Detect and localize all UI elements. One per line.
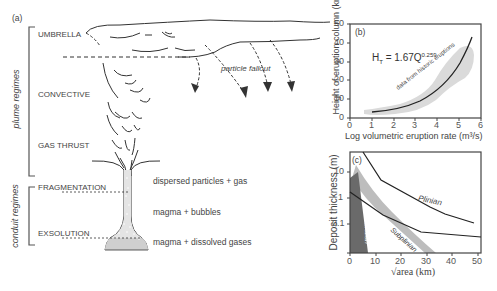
c-ytick-0: 0.1 [332,218,345,228]
conduit-regimes-label: conduit regimes [10,181,20,251]
state-dispersed: dispersed particles + gas [153,176,247,186]
b-ytick-3: 30 [334,56,344,66]
c-xtick-3: 30 [421,256,431,266]
b-xtick-3: 3 [412,120,417,130]
regime-convective: CONVECTIVE [38,90,90,99]
panel-c-label: (c) [352,155,362,165]
c-xtick-2: 20 [395,256,405,266]
b-ytick-4: 40 [334,37,344,47]
regime-gas-thrust: GAS THRUST [38,141,89,150]
b-xtick-4: 4 [434,120,439,130]
plot-c-xlabel: √area (km) [391,266,435,277]
panel-b-label: (b) [355,27,365,37]
plot-b-xlabel: Log volumetric eruption rate (m³/s) [345,131,483,141]
b-xtick-5: 5 [456,120,461,130]
b-ytick-5: 50 [334,18,344,28]
plume-regimes-label: plume regimes [11,59,21,139]
c-xtick-0: 0 [347,256,352,266]
b-xtick-2: 2 [391,120,396,130]
regime-exsolution: EXSOLUTION [38,229,90,238]
hawaiian-label: Hawaiian [364,213,371,247]
particle-fallout-label: particle fallout [221,64,270,73]
c-xtick-5: 50 [472,256,482,266]
c-xtick-1: 10 [370,256,380,266]
b-ytick-2: 20 [334,74,344,84]
regime-fragmentation: FRAGMENTATION [38,183,106,192]
b-xtick-0: 0 [347,120,352,130]
plot-c-ylabel: Deposit thickness (m) [328,148,339,258]
b-xtick-6: 6 [478,120,483,130]
panel-a-label: (a) [12,13,22,23]
b-ytick-1: 10 [334,93,344,103]
regime-umbrella: UMBRELLA [38,30,81,39]
c-ytick-2: 10 [334,166,344,176]
b-ytick-0: 0 [339,112,344,122]
c-xtick-4: 40 [446,256,456,266]
c-ytick-1: 1 [338,192,343,202]
b-xtick-1: 1 [369,120,374,130]
state-bubbles: magma + bubbles [153,207,221,217]
state-dissolved: magma + dissolved gases [153,237,252,247]
